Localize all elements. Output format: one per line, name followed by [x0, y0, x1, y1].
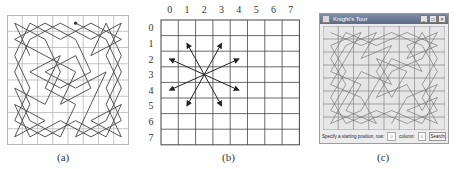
column-label: column:	[399, 134, 415, 139]
svg-text:6: 6	[149, 116, 154, 127]
svg-text:0: 0	[149, 22, 154, 33]
svg-text:2: 2	[149, 54, 154, 65]
svg-text:5: 5	[149, 100, 154, 111]
column-input[interactable]: 0	[418, 132, 427, 141]
app-icon	[322, 15, 330, 23]
caption-a: (a)	[57, 151, 69, 163]
svg-text:0: 0	[167, 4, 172, 15]
svg-text:6: 6	[271, 4, 276, 15]
svg-text:1: 1	[184, 4, 189, 15]
svg-text:2: 2	[202, 4, 207, 15]
svg-text:3: 3	[219, 4, 224, 15]
svg-text:5: 5	[254, 4, 259, 15]
control-panel: Specify a starting position, row: 0 colu…	[322, 131, 446, 142]
svg-text:4: 4	[236, 4, 241, 15]
minimize-button[interactable]: _	[420, 15, 428, 23]
svg-text:3: 3	[149, 69, 154, 80]
caption-b: (b)	[222, 151, 235, 163]
window-title: Knight's Tour	[333, 16, 419, 22]
svg-text:1: 1	[149, 38, 154, 49]
search-button[interactable]: Search	[429, 132, 446, 141]
prompt-label: Specify a starting position, row:	[322, 134, 384, 139]
caption-c: (c)	[377, 151, 389, 163]
row-input[interactable]: 0	[387, 132, 396, 141]
knights-tour-window: Knight's Tour _ □ × Specify a starting p…	[319, 13, 449, 144]
maximize-button[interactable]: □	[429, 15, 437, 23]
panel-a	[7, 15, 130, 146]
knight-moves-board: 0123456701234567	[140, 0, 302, 148]
panel-b: 0123456701234567	[140, 0, 302, 148]
svg-text:4: 4	[149, 85, 154, 96]
title-bar: Knight's Tour _ □ ×	[320, 14, 448, 24]
tour-board	[323, 26, 445, 130]
svg-text:7: 7	[149, 132, 154, 143]
close-button[interactable]: ×	[438, 15, 446, 23]
svg-text:7: 7	[288, 4, 293, 15]
knights-tour-path-board	[7, 15, 130, 146]
